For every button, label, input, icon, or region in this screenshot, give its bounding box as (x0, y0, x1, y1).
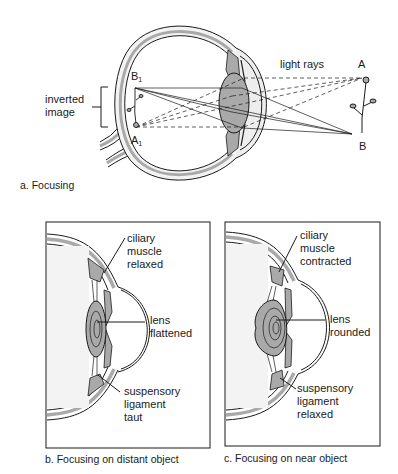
figure-c-caption: c. Focusing on near object (224, 452, 347, 464)
b-ligament-label-1: suspensory (124, 385, 181, 397)
c-ligament-label-1: suspensory (297, 382, 354, 394)
lens-flattened (86, 301, 106, 357)
figure-b-caption: b. Focusing on distant object (45, 453, 179, 465)
eyeball (115, 26, 267, 180)
b-lens-label-2: flattened (150, 327, 192, 339)
b-lens-label-1: lens (150, 314, 171, 326)
b-ciliary-label-2: muscle (127, 245, 162, 257)
c-ciliary-label-3: contracted (300, 255, 351, 267)
figure-b-distant: ciliary muscle relaxed lens flattened su… (45, 222, 210, 465)
object-flower (350, 77, 376, 133)
point-a-label: A (358, 58, 366, 70)
b-ligament-label-3: taut (124, 411, 142, 423)
c-ciliary-label-2: muscle (300, 242, 335, 254)
b-ciliary-label-3: relaxed (127, 258, 163, 270)
inverted-image-label-line2: image (45, 106, 75, 118)
light-rays-label: light rays (280, 58, 325, 70)
c-ligament-label-3: relaxed (297, 408, 333, 420)
c-lens-label-1: lens (330, 313, 351, 325)
figure-a-focusing: light rays A B B1 A1 inverted image a. F… (20, 26, 376, 191)
figure-c-near: ciliary muscle contracted lens rounded s… (224, 222, 380, 464)
c-lens-label-2: rounded (330, 326, 370, 338)
lens (219, 73, 249, 133)
eye-focusing-diagram: light rays A B B1 A1 inverted image a. F… (0, 0, 398, 474)
inverted-image-bracket (92, 87, 108, 127)
figure-a-caption: a. Focusing (20, 179, 74, 191)
b-ciliary-label-1: ciliary (127, 232, 156, 244)
c-ciliary-label-1: ciliary (300, 229, 329, 241)
b-ligament-label-2: ligament (124, 398, 166, 410)
c-ligament-label-2: ligament (297, 395, 339, 407)
point-b-label: B (359, 140, 366, 152)
inverted-image-label-line1: inverted (45, 93, 84, 105)
